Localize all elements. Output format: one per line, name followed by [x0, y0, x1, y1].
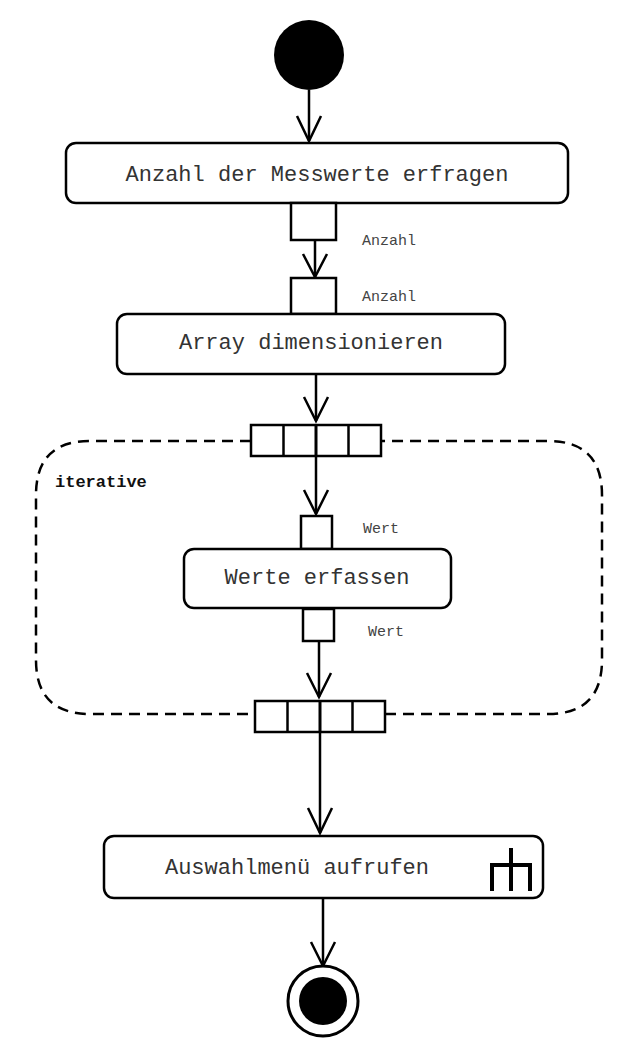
initial-node	[274, 20, 344, 90]
control-flow-arrow	[311, 898, 335, 966]
object-flow-arrow	[304, 456, 328, 514]
input-pin-wert[interactable]	[301, 516, 332, 549]
activity-diagram: Anzahl der Messwerte erfragen Anzahl Anz…	[0, 0, 624, 1051]
pin-label-wert-in: Wert	[363, 521, 399, 538]
action-label: Array dimensionieren	[179, 331, 443, 356]
expansion-input-node[interactable]	[251, 425, 381, 456]
region-mode-label: iterative	[55, 473, 147, 492]
pin-label-wert-out: Wert	[368, 624, 404, 641]
object-flow-arrow	[303, 240, 327, 277]
action-label: Werte erfassen	[225, 566, 410, 591]
input-pin-anzahl[interactable]	[291, 278, 336, 314]
action-auswahlmenue-aufrufen[interactable]: Auswahlmenü aufrufen	[104, 836, 543, 898]
output-pin-anzahl[interactable]	[291, 203, 336, 240]
action-array-dimensionieren[interactable]: Array dimensionieren	[117, 314, 505, 374]
action-label: Auswahlmenü aufrufen	[165, 856, 429, 881]
object-flow-arrow	[307, 641, 331, 697]
control-flow-arrow	[308, 732, 332, 833]
activity-final-node	[288, 966, 358, 1036]
output-pin-wert[interactable]	[303, 609, 334, 641]
pin-label-anzahl-in: Anzahl	[362, 289, 416, 306]
control-flow-arrow	[304, 374, 328, 421]
pin-label-anzahl-out: Anzahl	[362, 233, 416, 250]
action-label: Anzahl der Messwerte erfragen	[126, 163, 509, 188]
action-werte-erfassen[interactable]: Werte erfassen	[184, 549, 451, 608]
action-anzahl-erfragen[interactable]: Anzahl der Messwerte erfragen	[66, 143, 568, 203]
expansion-output-node[interactable]	[255, 701, 385, 732]
control-flow-arrow	[297, 90, 321, 141]
